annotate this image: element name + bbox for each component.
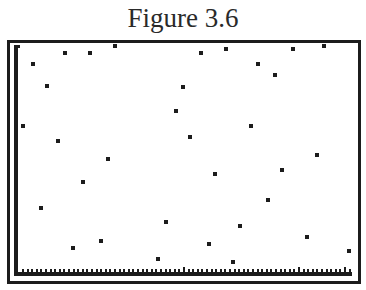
x-axis-tick	[229, 269, 231, 272]
x-axis-tick	[146, 269, 148, 272]
x-axis-tick	[257, 269, 259, 272]
x-axis-tick	[215, 269, 217, 272]
data-point	[56, 139, 60, 143]
scatter-plot	[0, 0, 366, 290]
data-point	[156, 257, 160, 261]
data-point	[181, 85, 185, 89]
data-point	[238, 224, 242, 228]
data-point	[347, 249, 351, 253]
data-point	[322, 44, 326, 48]
data-point	[113, 44, 117, 48]
x-axis-tick	[59, 269, 61, 272]
data-point	[266, 198, 270, 202]
x-axis-tick	[243, 269, 245, 272]
x-axis-tick	[280, 269, 282, 272]
x-axis-tick	[326, 269, 328, 272]
x-axis-tick	[68, 269, 70, 272]
data-point	[39, 206, 43, 210]
x-axis-tick	[165, 269, 167, 272]
data-point	[88, 51, 92, 55]
x-axis-tick	[197, 269, 199, 272]
data-point	[256, 62, 260, 66]
x-axis-tick	[188, 269, 190, 272]
x-axis-tick	[284, 269, 286, 272]
x-axis-tick	[119, 269, 121, 272]
data-point	[164, 220, 168, 224]
x-axis-tick	[307, 269, 309, 272]
data-point	[231, 260, 235, 264]
x-axis-tick	[142, 269, 144, 272]
x-axis-tick	[178, 269, 180, 272]
data-point	[199, 51, 203, 55]
data-point	[280, 168, 284, 172]
x-axis-tick	[132, 269, 134, 272]
y-axis-cap	[14, 45, 20, 48]
x-axis-tick	[303, 269, 305, 272]
x-axis-tick	[86, 269, 88, 272]
data-point	[99, 239, 103, 243]
x-axis-tick	[54, 269, 56, 272]
x-axis-tick	[96, 269, 98, 272]
x-axis-tick	[50, 269, 52, 272]
x-axis-tick	[238, 269, 240, 272]
x-axis-tick	[349, 269, 351, 272]
x-axis-tick	[123, 269, 125, 272]
y-axis	[14, 45, 18, 274]
x-axis-tick	[36, 269, 38, 272]
x-axis-tick	[137, 269, 139, 272]
x-axis-tick	[114, 269, 116, 272]
x-axis-tick	[155, 269, 157, 272]
x-axis-tick	[73, 269, 75, 272]
x-axis-tick	[128, 269, 130, 272]
x-axis-tick	[45, 269, 47, 272]
x-axis-tick	[22, 269, 24, 272]
data-point	[291, 47, 295, 51]
x-axis-tick	[91, 269, 93, 272]
x-axis-tick	[151, 269, 153, 272]
x-axis-tick	[234, 269, 236, 272]
data-point	[81, 180, 85, 184]
data-point	[71, 246, 75, 250]
x-axis-tick	[109, 269, 111, 272]
data-point	[213, 172, 217, 176]
data-point	[224, 47, 228, 51]
x-axis	[14, 272, 352, 276]
x-axis-tick	[169, 269, 171, 272]
x-axis-tick	[201, 269, 203, 272]
x-axis-tick	[289, 269, 291, 272]
x-axis-tick	[192, 269, 194, 272]
data-point	[305, 235, 309, 239]
x-axis-tick	[312, 269, 314, 272]
x-axis-tick	[27, 269, 29, 272]
data-point	[273, 73, 277, 77]
x-axis-tick	[316, 269, 318, 272]
data-point	[106, 157, 110, 161]
x-axis-tick	[247, 269, 249, 272]
x-axis-tick	[252, 269, 254, 272]
data-point	[249, 124, 253, 128]
data-point	[45, 84, 49, 88]
x-axis-tick	[224, 269, 226, 272]
data-point	[31, 62, 35, 66]
x-axis-tick	[40, 269, 42, 272]
x-axis-tick	[298, 267, 300, 272]
x-axis-tick	[174, 269, 176, 272]
x-axis-tick	[270, 269, 272, 272]
x-axis-tick	[100, 269, 102, 272]
data-point	[207, 242, 211, 246]
x-axis-tick	[339, 269, 341, 272]
x-axis-tick	[335, 269, 337, 272]
data-point	[63, 51, 67, 55]
x-axis-tick	[206, 269, 208, 272]
x-axis-tick	[344, 267, 346, 272]
x-axis-tick	[261, 269, 263, 272]
data-point	[21, 124, 25, 128]
x-axis-tick	[63, 269, 65, 272]
x-axis-tick	[321, 269, 323, 272]
x-axis-tick	[82, 269, 84, 272]
data-point	[188, 135, 192, 139]
data-point	[174, 109, 178, 113]
x-axis-tick	[211, 269, 213, 272]
x-axis-tick	[31, 269, 33, 272]
x-axis-tick	[105, 269, 107, 272]
